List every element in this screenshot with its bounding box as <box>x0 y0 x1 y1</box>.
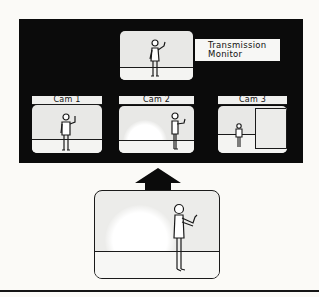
presenter-figure-icon <box>58 113 80 153</box>
presenter-figure-icon <box>146 39 170 79</box>
bottom-rule <box>0 290 319 292</box>
transmission-monitor-label: Transmission Monitor <box>195 39 280 61</box>
source-scene-monitor <box>94 190 220 279</box>
arrow-up-icon <box>134 168 182 191</box>
cam2-label: Cam 2 <box>119 96 194 105</box>
cam2-monitor[interactable] <box>119 106 194 153</box>
floor <box>95 251 219 278</box>
cam3-monitor[interactable] <box>218 106 287 153</box>
transmission-monitor-screen <box>120 31 193 80</box>
presenter-figure-icon <box>169 203 199 275</box>
door-panel <box>255 108 287 149</box>
presenter-figure-icon <box>233 123 245 149</box>
presenter-figure-icon <box>169 112 189 152</box>
cam3-label: Cam 3 <box>218 96 287 105</box>
cam1-monitor[interactable] <box>32 105 102 153</box>
cam1-label: Cam 1 <box>32 96 102 105</box>
